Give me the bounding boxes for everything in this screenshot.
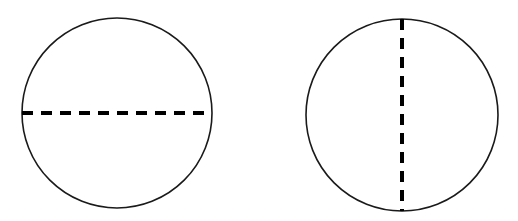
- left-circle-figure: [22, 18, 212, 208]
- diagram-canvas: [0, 0, 518, 221]
- diagram-svg: [0, 0, 518, 221]
- right-circle-figure: [306, 19, 498, 211]
